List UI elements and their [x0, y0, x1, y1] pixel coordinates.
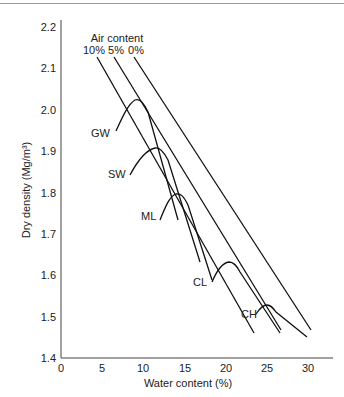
y-tick: 2.1: [41, 62, 56, 74]
y-tick: 2.0: [41, 104, 56, 116]
legend-title: Air content: [91, 32, 144, 44]
curve-ch: [256, 305, 307, 337]
x-tick: 0: [58, 362, 64, 374]
y-tick: 1.4: [41, 352, 56, 364]
legend-0pct: 0%: [128, 44, 144, 56]
x-tick: 25: [261, 362, 273, 374]
x-tick: 30: [302, 362, 314, 374]
label-cl: CL: [193, 276, 207, 288]
y-tick: 1.7: [41, 228, 56, 240]
label-sw: SW: [108, 168, 126, 180]
air-void-line-10pct: [97, 57, 254, 333]
x-tick: 10: [137, 362, 149, 374]
x-tick: 20: [220, 362, 232, 374]
legend-10pct: 10%: [83, 44, 105, 56]
curve-sw: [130, 148, 200, 262]
y-tick: 2.2: [41, 21, 56, 33]
label-ml: ML: [141, 210, 156, 222]
y-tick: 1.6: [41, 269, 56, 281]
y-tick: 1.5: [41, 311, 56, 323]
compaction-chart: 2.2 2.1 2.0 1.9 1.8 1.7 1.6 1.5 1.4 0 5 …: [0, 0, 344, 397]
y-axis-label: Dry density (Mg/m³): [20, 142, 32, 239]
legend-5pct: 5%: [108, 44, 124, 56]
label-ch: CH: [241, 308, 257, 320]
x-tick: 5: [99, 362, 105, 374]
label-gw: GW: [91, 127, 111, 139]
air-void-line-0pct: [134, 57, 311, 330]
air-void-line-5pct: [114, 57, 281, 330]
x-axis-label: Water content (%): [144, 377, 232, 389]
curve-ml: [160, 194, 212, 280]
y-tick: 1.8: [41, 187, 56, 199]
x-tick: 15: [179, 362, 191, 374]
y-tick: 1.9: [41, 145, 56, 157]
